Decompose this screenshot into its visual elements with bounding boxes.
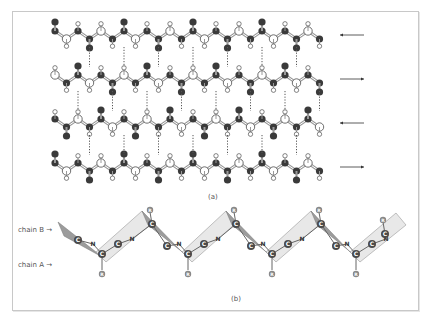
r-group-label: R [148,208,152,213]
oxygen-atom [201,132,208,139]
oxygen-atom [143,62,150,69]
hydrogen-atom [283,110,287,114]
oxygen-atom [120,18,127,25]
hydrogen-atom [76,110,80,114]
nitrogen-label: N [215,235,220,242]
hydrogen-atom [306,22,310,26]
hydrogen-atom [214,154,218,158]
chain-a-text: chain A [18,261,44,269]
hydrogen-atom [156,88,160,92]
hydrogen-atom [271,44,275,48]
hydrogen-atom [168,154,172,158]
figure-canvas: CNRCCNRCCNRCCNRCCNRCCNRCCNRCCNRC (a) cha… [0,0,427,318]
carbon-label: C [165,242,170,249]
hydrogen-atom [202,44,206,48]
hydrogen-atom [283,154,287,158]
hydrogen-atom [110,132,114,136]
carbon-label: C [319,220,324,227]
carbon-label: C [234,220,239,227]
hydrogen-atom [133,88,137,92]
hydrogen-atom [248,132,252,136]
hydrogen-atom [64,176,68,180]
chain-b-label: chain B → [18,226,52,234]
carbon-label: C [116,240,121,247]
arrow-right-icon: → [46,261,52,269]
oxygen-atom [304,106,311,113]
hydrogen-atom [271,176,275,180]
chain-a-label: chain A → [18,261,52,269]
carbon-label: C [249,242,254,249]
hydrogen-atom [283,22,287,26]
carbon-label: C [270,250,275,257]
hydrogen-atom [248,44,252,48]
hydrogen-atom [110,176,114,180]
hydrogen-atom [64,88,68,92]
oxygen-atom [51,150,58,157]
hydrogen-atom [53,110,57,114]
hydrogen-atom [99,22,103,26]
hydrogen-atom [99,66,103,70]
oxygen-atom [97,106,104,113]
hydrogen-atom [317,132,321,136]
hydrogen-atom [191,110,195,114]
hydrogen-atom [87,88,91,92]
oxygen-atom [120,150,127,157]
carbon-label: C [202,240,207,247]
oxygen-atom [132,132,139,139]
hydrogen-atom [122,66,126,70]
hydrogen-atom [145,110,149,114]
oxygen-atom [212,62,219,69]
hydrogen-atom [260,110,264,114]
r-group-label: R [232,208,236,213]
oxygen-atom [281,62,288,69]
arrow-right-icon [361,166,364,169]
oxygen-atom [74,62,81,69]
hydrogen-atom [168,66,172,70]
hydrogen-atom [237,66,241,70]
hydrogen-atom [317,176,321,180]
oxygen-atom [189,18,196,25]
nitrogen-label: N [129,235,134,242]
hydrogen-atom [110,44,114,48]
oxygen-atom [63,132,70,139]
hydrogen-atom [202,176,206,180]
oxygen-atom [166,106,173,113]
hydrogen-atom [214,110,218,114]
hydrogen-atom [237,22,241,26]
hydrogen-atom [64,44,68,48]
hydrogen-atom [76,22,80,26]
backbone-bond-highlight [55,163,320,171]
hydrogen-atom [133,176,137,180]
carbon-label: C [76,236,81,243]
hydrogen-atom [248,176,252,180]
hydrogen-atom [133,44,137,48]
hydrogen-atom [179,176,183,180]
carbon-label: C [354,250,359,257]
carbon-label: C [186,250,191,257]
r-group-label: R [270,272,274,277]
oxygen-atom [224,176,231,183]
arrow-right-icon [361,78,364,81]
backbone-bond-highlight [55,119,320,127]
hydrogen-atom [214,22,218,26]
carbon-label: C [286,240,291,247]
carbon-label: C [334,242,339,249]
hydrogen-atom [145,154,149,158]
arrow-left-icon [340,122,343,125]
carbon-label: C [370,240,375,247]
hydrogen-atom [76,154,80,158]
nitrogen-label: N [260,240,265,247]
hydrogen-atom [317,44,321,48]
hydrogen-atom [99,154,103,158]
nitrogen-label: N [176,240,181,247]
hydrogen-atom [191,66,195,70]
hydrogen-atom [179,44,183,48]
nitrogen-label: N [344,240,349,247]
carbon-label: C [150,220,155,227]
arrow-right-icon: → [46,226,52,234]
hydrogen-atom [145,22,149,26]
r-group-label: R [100,272,104,277]
backbone-bond-highlight [55,75,320,83]
chain-b-text: chain B [18,226,44,234]
hydrogen-atom [294,88,298,92]
